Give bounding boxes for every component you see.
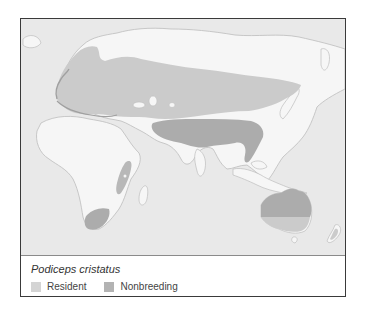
world-map (21, 19, 345, 255)
map-figure: Podiceps cristatus Resident Nonbreeding (20, 18, 346, 297)
resident-swatch (31, 282, 41, 292)
legend-item-nonbreeding: Nonbreeding (104, 281, 177, 292)
legend-item-resident: Resident (31, 281, 86, 292)
species-name: Podiceps cristatus (31, 263, 120, 275)
range-map (21, 19, 345, 256)
map-legend: Resident Nonbreeding (31, 281, 196, 292)
nonbreeding-swatch (104, 282, 114, 292)
legend-label-resident: Resident (47, 281, 86, 292)
legend-label-nonbreeding: Nonbreeding (120, 281, 177, 292)
